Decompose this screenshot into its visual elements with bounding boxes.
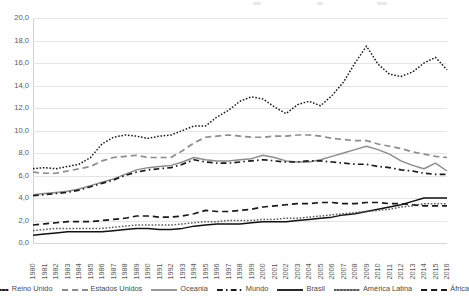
legend-item[interactable]: América Latina	[334, 285, 412, 293]
legend-label: Estados Unidos	[91, 285, 143, 293]
legend-label: Mundo	[246, 285, 269, 293]
series-line	[33, 146, 447, 194]
y-axis-tick-label: 8,0	[0, 149, 29, 157]
x-axis-tick-label: 2012	[397, 263, 404, 279]
legend-item[interactable]: Oceania	[151, 285, 208, 293]
plot-area	[33, 18, 447, 243]
x-axis-tick-label: 1985	[86, 263, 93, 279]
y-axis-tick-label: 0,0	[0, 239, 29, 247]
x-axis-tick-label: 2013	[408, 263, 415, 279]
x-axis-tick-label: 1980	[29, 263, 36, 279]
x-axis-tick-label: 2010	[374, 263, 381, 279]
legend-swatch-icon	[151, 286, 177, 292]
y-axis-tick-label: 10,0	[0, 127, 29, 135]
x-axis-tick-label: 2000	[259, 263, 266, 279]
legend-item[interactable]: Estados Unidos	[62, 285, 143, 293]
x-axis-tick-label: 2002	[282, 263, 289, 279]
crop-artifact	[253, 2, 261, 5]
legend-label: Oceania	[180, 285, 208, 293]
x-axis-tick-label: 1996	[213, 263, 220, 279]
legend-swatch-icon	[421, 286, 447, 292]
legend-swatch-icon	[0, 286, 9, 292]
x-axis-tick-label: 1993	[178, 263, 185, 279]
x-axis-tick-label: 2009	[362, 263, 369, 279]
x-axis-tick-label: 1995	[201, 263, 208, 279]
x-axis-tick-label: 1990	[144, 263, 151, 279]
x-axis-tick-label: 1988	[121, 263, 128, 279]
y-axis-labels: 0,02,04,06,08,010,012,014,016,018,020,0	[0, 18, 31, 243]
legend-label: Brasil	[306, 285, 324, 293]
legend-item[interactable]: Mundo	[217, 285, 269, 293]
x-axis-tick-label: 1982	[52, 263, 59, 279]
y-axis-tick-label: 14,0	[0, 82, 29, 90]
legend-item[interactable]: Brasil	[277, 285, 324, 293]
crop-artifact	[377, 2, 387, 5]
x-axis-tick-label: 2015	[431, 263, 438, 279]
legend-swatch-icon	[62, 286, 88, 292]
series-line	[33, 46, 447, 169]
x-axis-tick-label: 1999	[247, 263, 254, 279]
y-axis-tick-label: 2,0	[0, 217, 29, 225]
y-axis-tick-label: 6,0	[0, 172, 29, 180]
legend-label: Reino Unido	[12, 285, 53, 293]
y-axis-tick-label: 20,0	[0, 14, 29, 22]
x-axis-tick-label: 2003	[293, 263, 300, 279]
legend-swatch-icon	[334, 286, 360, 292]
x-axis-tick-label: 2007	[339, 263, 346, 279]
x-axis-tick-label: 1994	[190, 263, 197, 279]
x-axis-tick-label: 1987	[109, 263, 116, 279]
y-axis-tick-label: 12,0	[0, 104, 29, 112]
gridline	[33, 243, 447, 244]
series-line	[33, 203, 447, 226]
x-axis-tick-label: 2014	[420, 263, 427, 279]
series-line	[33, 135, 447, 173]
legend-swatch-icon	[217, 286, 243, 292]
series-layer	[33, 18, 447, 243]
legend-label: América Latina	[363, 285, 412, 293]
chart-legend: Reino UnidoEstados UnidosOceaniaMundoBra…	[0, 282, 452, 296]
y-axis-tick-label: 18,0	[0, 37, 29, 45]
crop-artifact	[317, 2, 323, 5]
x-axis-labels: 1980198119821983198419851986198719881989…	[33, 245, 447, 279]
x-axis-tick-label: 2005	[316, 263, 323, 279]
x-axis-tick-label: 1998	[236, 263, 243, 279]
legend-swatch-icon	[277, 286, 303, 292]
x-axis-tick-label: 1986	[98, 263, 105, 279]
x-axis-tick-label: 2001	[270, 263, 277, 279]
x-axis-tick-label: 1984	[75, 263, 82, 279]
y-axis-tick-label: 4,0	[0, 194, 29, 202]
y-axis-tick-label: 16,0	[0, 59, 29, 67]
x-axis-tick-label: 2004	[305, 263, 312, 279]
x-axis-tick-label: 1992	[167, 263, 174, 279]
x-axis-tick-label: 2016	[443, 263, 450, 279]
legend-item[interactable]: Reino Unido	[0, 285, 53, 293]
x-axis-tick-label: 1989	[132, 263, 139, 279]
x-axis-tick-label: 1991	[155, 263, 162, 279]
x-axis-tick-label: 2006	[328, 263, 335, 279]
x-axis-tick-label: 2011	[385, 264, 392, 280]
x-axis-tick-label: 1983	[63, 263, 70, 279]
x-axis-tick-label: 1997	[224, 263, 231, 279]
legend-label: África	[450, 285, 469, 293]
legend-item[interactable]: África	[421, 285, 469, 293]
x-axis-tick-label: 2008	[351, 263, 358, 279]
x-axis-tick-label: 1981	[40, 263, 47, 279]
